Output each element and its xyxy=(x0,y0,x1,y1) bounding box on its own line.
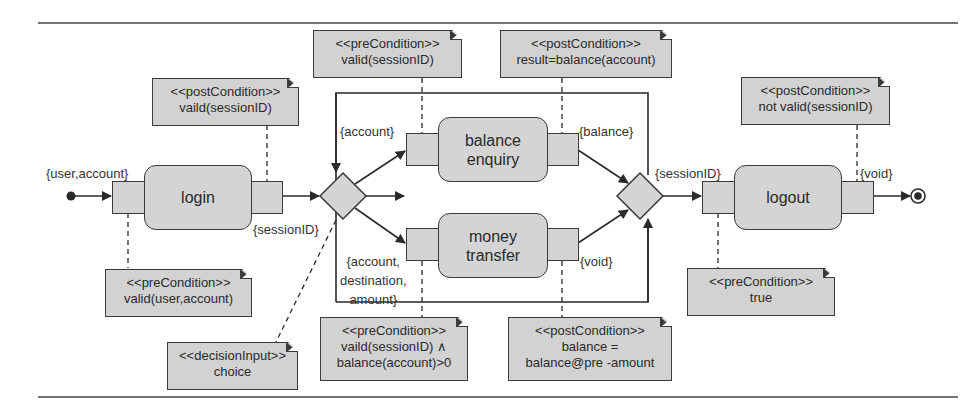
login-output-pin xyxy=(250,181,283,214)
initial-node xyxy=(67,192,76,201)
note-stereotype: <<postCondition>> xyxy=(742,83,889,99)
note-body: choice xyxy=(168,364,297,380)
note-stereotype: <<preCondition>> xyxy=(688,274,834,290)
note-body: not valid(sessionID) xyxy=(742,99,889,115)
transfer-input-pin xyxy=(406,228,439,261)
note-login-postcondition: <<postCondition>> vaild(sessionID) xyxy=(152,78,299,126)
transfer-output-pin xyxy=(546,228,579,261)
action-label: enquiry xyxy=(465,150,521,169)
note-body: balance(account)>0 xyxy=(321,355,467,371)
label-line: {account, xyxy=(340,252,407,271)
action-label: transfer xyxy=(466,246,520,265)
action-login[interactable]: login xyxy=(144,165,252,230)
note-stereotype: <<postCondition>> xyxy=(509,323,671,339)
note-stereotype: <<decisionInput>> xyxy=(168,348,297,364)
action-label: login xyxy=(181,188,215,207)
action-balance-enquiry[interactable]: balanceenquiry xyxy=(438,117,548,182)
decision-node xyxy=(320,173,366,219)
note-body: result=balance(account) xyxy=(501,52,671,68)
action-label: logout xyxy=(766,188,810,207)
logout-input-pin xyxy=(702,181,735,214)
note-balance-postcondition: <<postCondition>> result=balance(account… xyxy=(500,30,672,78)
balance-input-pin xyxy=(406,133,439,166)
pin-label-login-out: {sessionID} xyxy=(253,222,319,237)
note-body: valid(user,account) xyxy=(106,291,251,307)
action-money-transfer[interactable]: moneytransfer xyxy=(438,213,548,278)
pin-label-balance-in: {account} xyxy=(340,124,394,139)
action-label: balance xyxy=(465,131,521,150)
label-line: destination, xyxy=(340,271,407,290)
note-decision-input: <<decisionInput>> choice xyxy=(167,342,298,390)
note-logout-postcondition: <<postCondition>> not valid(sessionID) xyxy=(741,77,890,125)
pin-label-transfer-out: {void} xyxy=(580,254,613,269)
pin-label-logout-in: {sessionID} xyxy=(655,166,721,181)
action-logout[interactable]: logout xyxy=(734,165,842,230)
pin-label-balance-out: {balance} xyxy=(579,124,633,139)
note-body: vaild(sessionID) ∧ xyxy=(321,339,467,355)
note-stereotype: <<postCondition>> xyxy=(501,36,671,52)
note-body: balance@pre -amount xyxy=(509,355,671,371)
action-label: money xyxy=(466,227,520,246)
pin-label-logout-out: {void} xyxy=(860,166,893,181)
note-balance-precondition: <<preCondition>> valid(sessionID) xyxy=(313,30,462,78)
balance-output-pin xyxy=(546,133,579,166)
note-stereotype: <<preCondition>> xyxy=(321,323,467,339)
pin-label-login-in: {user,account} xyxy=(46,166,128,181)
logout-output-pin xyxy=(841,181,874,214)
note-body: balance = xyxy=(509,339,671,355)
note-stereotype: <<preCondition>> xyxy=(314,36,461,52)
note-stereotype: <<preCondition>> xyxy=(106,275,251,291)
pin-label-transfer-in: {account, destination, amount} xyxy=(340,252,407,309)
note-transfer-precondition: <<preCondition>> vaild(sessionID) ∧ bala… xyxy=(320,317,468,381)
note-body: valid(sessionID) xyxy=(314,52,461,68)
note-body: vaild(sessionID) xyxy=(153,100,298,116)
label-line: amount} xyxy=(340,290,407,309)
note-transfer-postcondition: <<postCondition>> balance = balance@pre … xyxy=(508,317,672,381)
note-stereotype: <<postCondition>> xyxy=(153,84,298,100)
note-logout-precondition: <<preCondition>> true xyxy=(687,268,835,316)
note-login-precondition: <<preCondition>> valid(user,account) xyxy=(105,269,252,317)
login-input-pin xyxy=(112,181,145,214)
note-body: true xyxy=(688,290,834,306)
